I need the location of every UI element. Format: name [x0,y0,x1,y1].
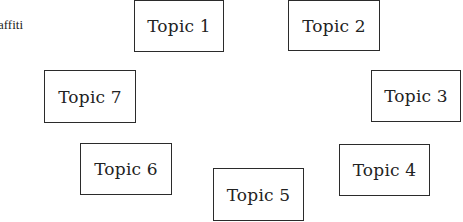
topic-box-1: Topic 1 [134,0,224,52]
topic-label: Topic 2 [302,16,366,36]
topic-label: Topic 6 [94,159,158,179]
topic-label: Topic 3 [384,86,448,106]
topic-label: Topic 5 [227,185,291,205]
topic-label: Topic 7 [58,87,122,107]
topic-box-5: Topic 5 [213,168,304,221]
topic-label: Topic 1 [147,16,211,36]
topic-box-4: Topic 4 [339,144,430,196]
topic-box-3: Topic 3 [371,70,461,122]
topic-box-2: Topic 2 [288,0,380,51]
topic-label: Topic 4 [353,160,417,180]
topic-box-7: Topic 7 [44,70,136,123]
partial-center-label: affiti [0,17,23,33]
topic-box-6: Topic 6 [80,143,172,195]
